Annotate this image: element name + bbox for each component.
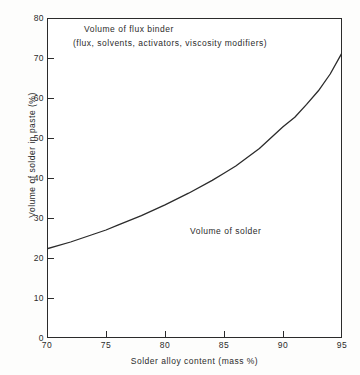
y-tick-mark (47, 178, 54, 179)
annotation-flux-binder-detail: (flux, solvents, activators, viscosity m… (73, 38, 267, 48)
y-tick-mark (47, 298, 54, 299)
x-tick-label: 85 (210, 340, 238, 350)
y-axis-title: Volume of solder in paste (%) (27, 60, 37, 250)
annotation-flux-binder-title: Volume of flux binder (84, 24, 174, 34)
x-tick-mark (224, 331, 225, 338)
x-tick-label: 95 (328, 340, 356, 350)
y-tick-mark (47, 98, 54, 99)
x-tick-label: 75 (92, 340, 120, 350)
x-tick-mark (283, 331, 284, 338)
y-tick-mark (47, 138, 54, 139)
y-tick-mark (47, 218, 54, 219)
x-tick-label: 80 (151, 340, 179, 350)
chart-figure: 80706050403020100 707580859095 Volume of… (0, 0, 360, 375)
y-tick-mark (47, 258, 54, 259)
y-tick-label: 80 (18, 13, 44, 23)
annotation-volume-of-solder: Volume of solder (190, 226, 261, 236)
y-tick-label: 20 (18, 253, 44, 263)
y-tick-label: 10 (18, 293, 44, 303)
x-tick-mark (165, 331, 166, 338)
x-tick-label: 70 (33, 340, 61, 350)
x-tick-label: 90 (269, 340, 297, 350)
solder-volume-curve (47, 18, 342, 338)
y-tick-mark (47, 58, 54, 59)
x-axis-title: Solder alloy content (mass %) (47, 356, 342, 366)
x-tick-mark (106, 331, 107, 338)
